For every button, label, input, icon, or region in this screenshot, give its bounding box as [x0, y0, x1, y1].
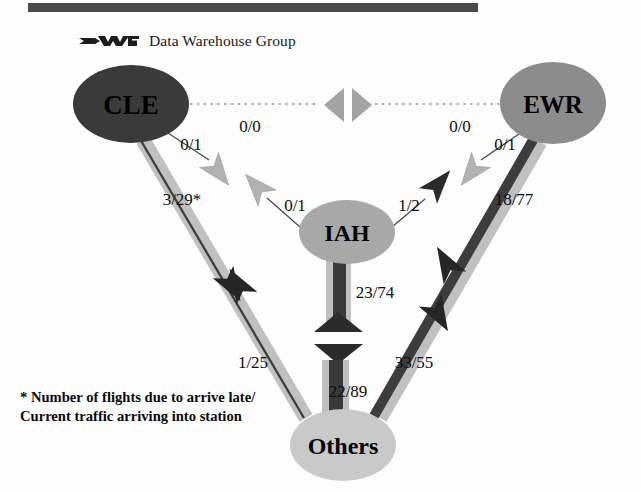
label-iah-others-up: 23/74: [356, 283, 395, 302]
label-cle-iah-far: 0/1: [284, 196, 306, 215]
label-cle-iah-near: 0/1: [180, 135, 202, 154]
node-others-label: Others: [308, 433, 379, 459]
edge-cle-ewr-arrow-right: [352, 88, 372, 122]
label-iah-others-dn: 22/89: [329, 382, 368, 401]
edge-iah-others-core-upper: [333, 258, 346, 322]
edge-ewr-others-core: [374, 140, 533, 416]
edge-ewr-others: [374, 140, 540, 418]
node-iah[interactable]: IAH: [299, 200, 395, 264]
node-cle-label: CLE: [103, 90, 159, 120]
label-ewr-iah-near: 0/1: [494, 135, 516, 154]
label-ewr-others-dn: 33/55: [395, 353, 434, 372]
node-iah-label: IAH: [324, 220, 370, 246]
node-ewr-label: EWR: [523, 91, 584, 118]
edge-ewr-iah-arrow-far: [419, 162, 459, 203]
diagram-canvas: Data Warehouse Group: [0, 0, 641, 494]
label-cle-others-dn: 1/25: [238, 353, 268, 372]
footnote-line-2: Current traffic arriving into station: [20, 407, 320, 426]
footnote-line-1: * Number of flights due to arrive late/: [20, 388, 320, 407]
node-cle[interactable]: CLE: [73, 65, 189, 143]
label-ewr-iah-far: 1/2: [398, 196, 420, 215]
edge-cle-iah-arrow-near: [200, 153, 239, 193]
edge-ewr-iah-arrow-near: [452, 153, 491, 193]
label-cle-ewr-right: 0/0: [449, 117, 471, 136]
node-ewr[interactable]: EWR: [500, 62, 606, 144]
label-ewr-others-up: 18/77: [495, 190, 534, 209]
edge-cle-ewr-arrow-left: [324, 88, 344, 122]
edge-ewr-others-band: [380, 142, 540, 418]
footnote: * Number of flights due to arrive late/ …: [20, 388, 320, 427]
edge-iah-others-arrow-up: [314, 312, 363, 332]
label-cle-others-up: 3/29*: [163, 190, 202, 209]
label-cle-ewr-left: 0/0: [239, 117, 261, 136]
